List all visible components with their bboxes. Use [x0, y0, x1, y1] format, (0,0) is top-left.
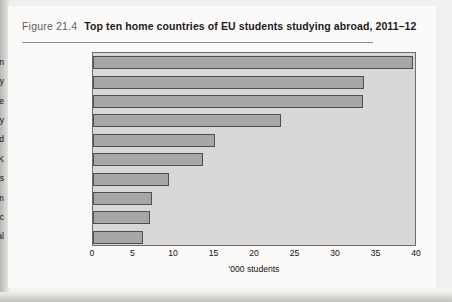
y-axis-label-uk: UK	[0, 154, 4, 164]
bar-france	[93, 95, 363, 108]
y-axis-label-germany: Germany	[0, 76, 4, 86]
chart-plot-wrapper	[92, 52, 416, 246]
x-tick-30: 30	[320, 248, 350, 258]
figure-number: Figure 21.4	[22, 20, 77, 32]
y-axis-label-italy: Italy	[0, 115, 4, 125]
x-tick-10: 10	[158, 248, 188, 258]
x-axis-title: '000 students	[92, 264, 416, 274]
bar-belgium	[93, 192, 152, 205]
y-axis-label-czech-republic: Czech Republic	[0, 212, 4, 222]
x-tick-15: 15	[199, 248, 229, 258]
y-axis-label-france: France	[0, 96, 4, 106]
book-page: Figure 21.4 Top ten home countries of EU…	[0, 0, 452, 302]
bar-uk	[93, 153, 203, 166]
y-axis-label-poland: Poland	[0, 134, 4, 144]
x-tick-40: 40	[401, 248, 431, 258]
bar-poland	[93, 134, 215, 147]
page-edge-shadow-bottom	[0, 292, 452, 302]
page-title: Top ten home countries of EU students st…	[84, 20, 416, 32]
bar-czech-republic	[93, 211, 150, 224]
x-tick-20: 20	[239, 248, 269, 258]
bar-italy	[93, 114, 281, 127]
figure-container: Figure 21.4 Top ten home countries of EU…	[8, 6, 436, 288]
bar-germany	[93, 76, 364, 89]
y-axis-label-netherlands: Netherlands	[0, 173, 4, 183]
x-tick-25: 25	[280, 248, 310, 258]
title-divider	[22, 42, 373, 43]
y-axis-label-spain: Spain	[0, 57, 4, 67]
y-axis-label-belgium: Belgium	[0, 193, 4, 203]
chart-plot-area	[92, 52, 416, 246]
figure-heading: Figure 21.4 Top ten home countries of EU…	[22, 20, 422, 40]
bar-netherlands	[93, 173, 169, 186]
y-axis-label-portugal: Portugal	[0, 231, 4, 241]
x-axis-tick-labels: 0510152025303540	[92, 248, 416, 262]
bar-portugal	[93, 231, 143, 244]
x-tick-0: 0	[77, 248, 107, 258]
y-axis-category-labels: SpainGermanyFranceItalyPolandUKNetherlan…	[0, 52, 4, 246]
x-tick-5: 5	[118, 248, 148, 258]
bar-spain	[93, 56, 413, 69]
x-tick-35: 35	[361, 248, 391, 258]
